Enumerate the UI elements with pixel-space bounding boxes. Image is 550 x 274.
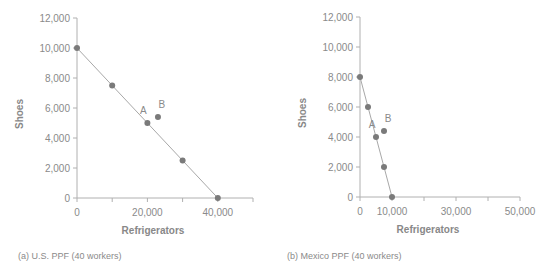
ppf-point (215, 195, 221, 201)
y-tick-label: 0 (64, 193, 70, 204)
ppf-point (357, 74, 363, 80)
point-label-b: B (385, 113, 392, 124)
us-chart-caption: (a) U.S. PPF (40 workers) (18, 251, 122, 261)
x-tick-label: 0 (357, 206, 363, 217)
y-axis-label: Shoes (14, 99, 25, 129)
x-axis-label: Refrigerators (122, 225, 185, 236)
ppf-point (144, 120, 150, 126)
y-tick-label: 6,000 (328, 102, 353, 113)
x-tick-label: 50,000 (505, 206, 536, 217)
us-ppf-chart: 02,0004,0006,0008,00010,00012,000020,000… (0, 0, 275, 240)
y-tick-label: 2,000 (45, 163, 70, 174)
y-tick-label: 10,000 (322, 42, 353, 53)
mexico-ppf-chart: 02,0004,0006,0008,00010,00012,000010,000… (275, 0, 550, 240)
y-tick-label: 10,000 (39, 43, 70, 54)
point-label-a: A (369, 119, 376, 130)
ppf-point (373, 134, 379, 140)
y-tick-label: 4,000 (45, 133, 70, 144)
y-tick-label: 8,000 (328, 72, 353, 83)
ppf-point (365, 104, 371, 110)
ppf-point (109, 83, 115, 89)
ppf-point (74, 45, 80, 51)
x-tick-label: 0 (74, 207, 80, 218)
point-b (381, 128, 387, 134)
point-b (155, 114, 161, 120)
ppf-point (180, 158, 186, 164)
y-tick-label: 4,000 (328, 132, 353, 143)
y-tick-label: 12,000 (322, 12, 353, 23)
point-label-a: A (140, 105, 147, 116)
y-tick-label: 8,000 (45, 73, 70, 84)
ppf-point (389, 194, 395, 200)
y-tick-label: 12,000 (39, 13, 70, 24)
x-tick-label: 20,000 (132, 207, 163, 218)
x-tick-label: 10,000 (377, 206, 408, 217)
x-tick-label: 30,000 (441, 206, 472, 217)
x-axis-label: Refrigerators (397, 224, 460, 235)
y-axis-label: Shoes (297, 98, 308, 128)
y-tick-label: 2,000 (328, 162, 353, 173)
x-tick-label: 40,000 (203, 207, 234, 218)
y-tick-label: 6,000 (45, 103, 70, 114)
mexico-chart-caption: (b) Mexico PPF (40 workers) (287, 251, 402, 261)
ppf-point (381, 164, 387, 170)
point-label-b: B (159, 99, 166, 110)
y-tick-label: 0 (347, 192, 353, 203)
